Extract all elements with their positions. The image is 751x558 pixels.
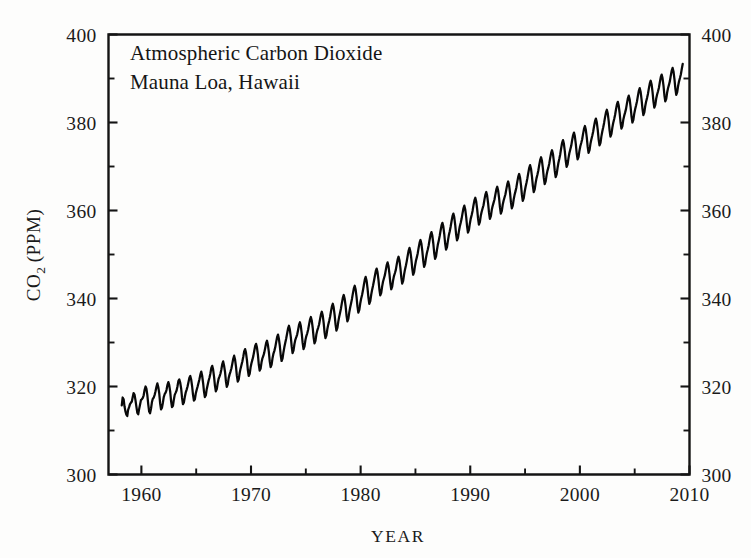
y-axis-title-main: CO: [23, 274, 44, 302]
svg-text:CO2(PPM): CO2(PPM): [23, 209, 48, 302]
chart-figure: 196019701980199020002010 300320340360380…: [0, 0, 751, 558]
chart-canvas: 196019701980199020002010 300320340360380…: [0, 0, 751, 558]
y-tick-label-left: 300: [66, 465, 96, 486]
axis-ticks: [109, 35, 690, 475]
data-series-line: [122, 64, 683, 416]
plot-frame: [109, 35, 690, 475]
x-tick-label: 1960: [121, 484, 161, 505]
co2-curve-path: [122, 64, 683, 416]
x-tick-label: 2010: [669, 484, 709, 505]
y-tick-label-right: 360: [702, 201, 732, 222]
y-tick-label-right: 300: [702, 465, 732, 486]
x-axis-tick-labels: 196019701980199020002010: [121, 484, 709, 505]
y-tick-label-left: 400: [66, 25, 96, 46]
y-axis-tick-labels-left: 300320340360380400: [66, 25, 96, 486]
x-tick-label: 1990: [450, 484, 490, 505]
y-axis-title: CO2(PPM): [23, 209, 48, 302]
y-tick-label-left: 380: [66, 113, 96, 134]
y-tick-label-right: 320: [702, 377, 732, 398]
chart-title-line-2: Mauna Loa, Hawaii: [130, 70, 300, 94]
y-axis-title-subscript: 2: [33, 266, 48, 273]
y-tick-label-right: 400: [702, 25, 732, 46]
y-tick-label-right: 340: [702, 289, 732, 310]
y-tick-label-left: 320: [66, 377, 96, 398]
chart-title-line-1: Atmospheric Carbon Dioxide: [130, 41, 382, 65]
x-tick-label: 1970: [231, 484, 271, 505]
y-axis-tick-labels-right: 300320340360380400: [702, 25, 732, 486]
y-tick-label-left: 360: [66, 201, 96, 222]
y-tick-label-left: 340: [66, 289, 96, 310]
x-axis-title: YEAR: [371, 526, 425, 546]
x-tick-label: 2000: [560, 484, 600, 505]
x-tick-label: 1980: [341, 484, 381, 505]
y-tick-label-right: 380: [702, 113, 732, 134]
y-axis-title-unit: (PPM): [23, 209, 45, 263]
